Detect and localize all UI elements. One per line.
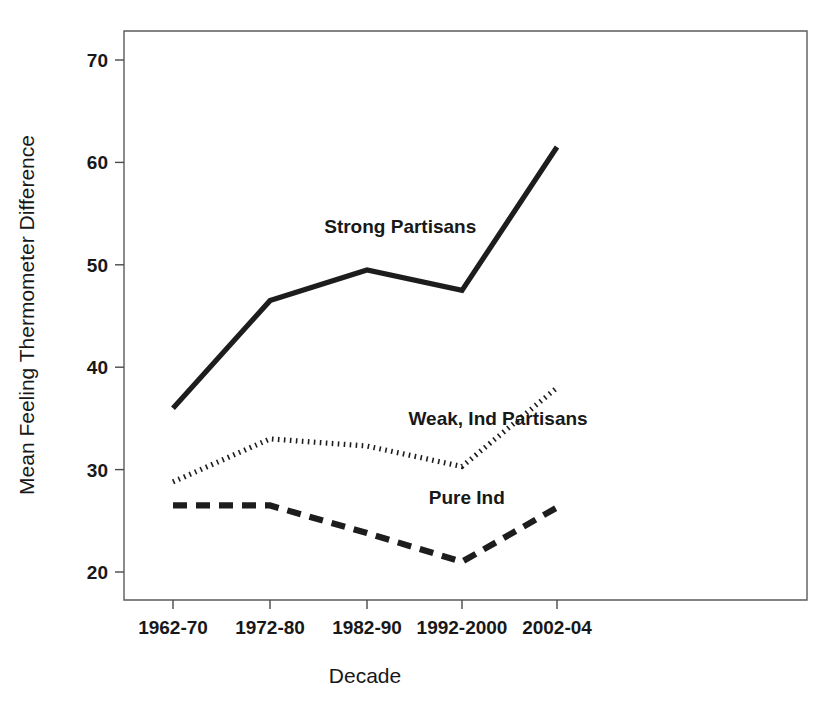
x-tick-label: 1982-90 [332,617,402,638]
series-line [173,388,557,482]
y-tick-label: 30 [87,460,108,481]
line-chart: 203040506070 1962-701972-801982-901992-2… [0,0,838,701]
x-tick-label: 1992-2000 [417,617,508,638]
plot-frame [124,31,807,600]
series-annotation-label: Strong Partisans [324,216,476,237]
y-axis-title: Mean Feeling Thermometer Difference [15,135,38,495]
y-tick-label: 60 [87,152,108,173]
chart-container: 203040506070 1962-701972-801982-901992-2… [0,0,838,701]
y-tick-label: 70 [87,50,108,71]
series-annotation-label: Weak, Ind Partisans [409,408,588,429]
series-line [173,505,557,561]
y-axis-ticks: 203040506070 [87,50,124,583]
series-annotation-label: Pure Ind [429,487,505,508]
series-line [173,147,557,408]
x-tick-label: 1972-80 [235,617,305,638]
x-tick-label: 2002-04 [522,617,592,638]
y-tick-label: 50 [87,255,108,276]
x-axis-title: Decade [329,664,401,687]
y-tick-label: 20 [87,562,108,583]
x-tick-label: 1962-70 [138,617,208,638]
y-tick-label: 40 [87,357,108,378]
x-axis-ticks: 1962-701972-801982-901992-20002002-04 [138,600,592,638]
